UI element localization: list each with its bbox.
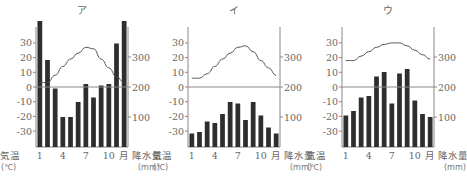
x-tick-label: 1 <box>37 150 43 161</box>
precip-bar <box>243 120 248 147</box>
precip-bar <box>420 114 425 147</box>
temp-axis-label: 気温 <box>152 150 172 161</box>
precip-bar <box>382 72 387 147</box>
precip-bar <box>60 117 65 147</box>
precip-axis-label: 降水量 <box>438 150 467 161</box>
precip-bar <box>37 21 42 147</box>
precip-bar <box>205 122 210 148</box>
x-tick-label: 10 <box>103 150 115 161</box>
x-tick-label: 4 <box>366 150 372 161</box>
x-tick-label: 4 <box>60 150 66 161</box>
left-tick-label: -30 <box>169 126 184 137</box>
precip-bar <box>189 134 194 148</box>
left-tick-label: -10 <box>17 96 32 107</box>
month-unit-label: 月 <box>271 150 281 161</box>
precip-bar <box>122 21 127 147</box>
month-unit-label: 月 <box>119 150 129 161</box>
precip-bar <box>220 114 225 147</box>
precip-bar <box>76 102 81 147</box>
temp-unit-label: (℃) <box>153 163 168 172</box>
climate-charts: ア3020100-10-20-3030020010014710月気温(℃)降水量… <box>0 0 467 176</box>
x-tick-label: 10 <box>409 150 421 161</box>
left-tick-label: -30 <box>17 126 32 137</box>
x-tick-label: 4 <box>212 150 218 161</box>
x-tick-label: 7 <box>389 150 395 161</box>
chart-title: イ <box>229 5 239 16</box>
precip-bar <box>197 132 202 147</box>
precip-bar <box>397 74 402 148</box>
x-tick-label: 7 <box>235 150 241 161</box>
precip-bar <box>45 60 50 147</box>
temp-unit-label: (℃) <box>1 163 16 172</box>
precip-bar <box>68 117 73 147</box>
climate-chart-2: イ3020100-10-20-3030020010014710月気温(℃)降水量… <box>152 5 314 172</box>
temperature-line <box>192 46 276 78</box>
temperature-line <box>40 47 124 82</box>
left-tick-label: 10 <box>172 67 184 78</box>
temp-unit-label: (℃) <box>307 163 322 172</box>
left-tick-label: 30 <box>326 37 338 48</box>
climate-chart-1: ア3020100-10-20-3030020010014710月気温(℃)降水量… <box>0 5 162 172</box>
left-tick-label: -10 <box>323 96 338 107</box>
month-unit-label: 月 <box>425 150 435 161</box>
right-tick-label: 100 <box>284 112 302 123</box>
precip-bar <box>266 128 271 148</box>
right-tick-label: 200 <box>132 82 150 93</box>
precip-bar <box>228 102 233 147</box>
precip-bar <box>389 104 394 148</box>
temp-axis-label: 気温 <box>0 150 20 161</box>
left-tick-label: -20 <box>323 111 338 122</box>
precip-bar <box>106 84 111 147</box>
precip-bar <box>99 86 104 148</box>
precip-bar <box>359 98 364 148</box>
precip-bar <box>235 104 240 148</box>
x-tick-label: 1 <box>189 150 195 161</box>
climate-chart-3: ウ3020100-10-20-3030020010014710月気温(℃)降水量… <box>306 5 467 172</box>
left-tick-label: 10 <box>20 67 32 78</box>
x-tick-label: 7 <box>83 150 89 161</box>
precip-bar <box>251 102 256 147</box>
right-tick-label: 300 <box>284 52 302 63</box>
precip-unit-label: (mm) <box>444 163 466 172</box>
right-tick-label: 200 <box>438 82 456 93</box>
left-tick-label: -10 <box>169 96 184 107</box>
precip-bar <box>428 117 433 147</box>
precip-bar <box>258 116 263 148</box>
x-tick-label: 1 <box>343 150 349 161</box>
precip-bar <box>343 116 348 148</box>
right-tick-label: 300 <box>132 52 150 63</box>
left-tick-label: 0 <box>332 82 338 93</box>
left-tick-label: 20 <box>326 52 338 63</box>
precip-bar <box>366 96 371 147</box>
temperature-line <box>346 43 430 61</box>
x-tick-label: 10 <box>255 150 267 161</box>
precip-bar <box>274 134 279 148</box>
precip-bar <box>212 123 217 147</box>
left-tick-label: 0 <box>26 82 32 93</box>
precip-bar <box>114 44 119 148</box>
right-tick-label: 100 <box>438 112 456 123</box>
precip-bar <box>412 101 417 148</box>
left-tick-label: -20 <box>17 111 32 122</box>
precip-bar <box>91 98 96 148</box>
left-tick-label: 20 <box>20 52 32 63</box>
chart-title: ア <box>77 5 87 16</box>
precip-bar <box>53 89 58 148</box>
left-tick-label: 20 <box>172 52 184 63</box>
precip-bar <box>351 111 356 147</box>
temp-axis-label: 気温 <box>306 150 326 161</box>
left-tick-label: -20 <box>169 111 184 122</box>
precip-bar <box>405 69 410 147</box>
left-tick-label: 30 <box>172 37 184 48</box>
left-tick-label: 0 <box>178 82 184 93</box>
precip-bar <box>83 84 88 147</box>
right-tick-label: 100 <box>132 112 150 123</box>
right-tick-label: 300 <box>438 52 456 63</box>
right-tick-label: 200 <box>284 82 302 93</box>
left-tick-label: -30 <box>323 126 338 137</box>
left-tick-label: 30 <box>20 37 32 48</box>
left-tick-label: 10 <box>326 67 338 78</box>
chart-title: ウ <box>383 5 393 16</box>
